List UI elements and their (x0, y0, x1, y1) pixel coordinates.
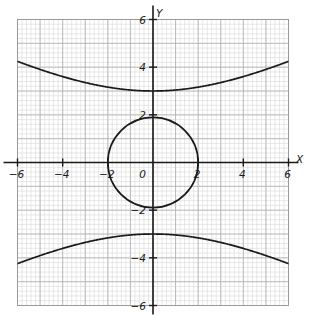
coordinate-plane: −6−4−2246642−2−4−60 X Y (0, 0, 310, 317)
x-axis-label: X (295, 153, 304, 165)
x-tick--2: −2 (99, 168, 115, 180)
x-tick-4: 4 (239, 168, 246, 180)
origin-label: 0 (139, 168, 146, 180)
graph-figure: −6−4−2246642−2−4−60 X Y (0, 0, 310, 317)
y-tick-2: 2 (139, 109, 146, 121)
y-tick-6: 6 (139, 14, 146, 26)
y-tick-4: 4 (139, 61, 146, 73)
y-tick--2: −2 (131, 204, 147, 216)
y-tick--6: −6 (131, 300, 147, 312)
y-tick--4: −4 (131, 252, 146, 264)
x-tick--4: −4 (54, 168, 69, 180)
x-tick-2: 2 (194, 168, 201, 180)
x-tick-6: 6 (284, 168, 291, 180)
y-axis-label: Y (156, 7, 164, 19)
x-tick--6: −6 (9, 168, 25, 180)
